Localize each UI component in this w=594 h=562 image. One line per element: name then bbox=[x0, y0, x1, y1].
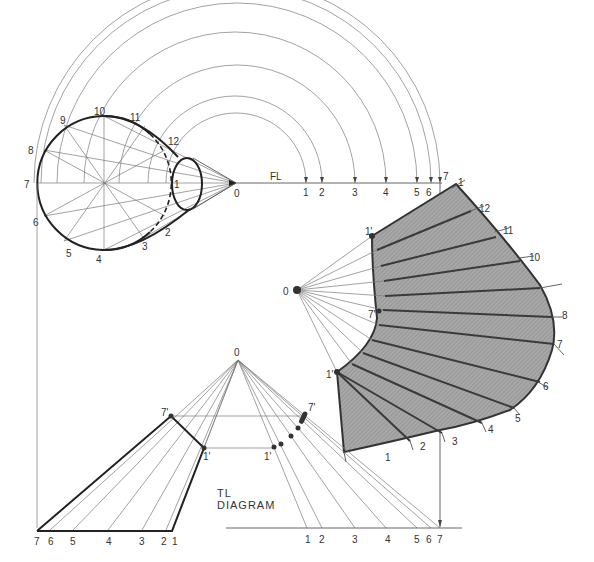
svg-text:6: 6 bbox=[48, 536, 54, 547]
pattern-development bbox=[293, 180, 564, 462]
cone-development-drawing: FL 1 2 3 4 5 6 7 bbox=[0, 0, 594, 562]
svg-text:8: 8 bbox=[562, 310, 568, 321]
svg-text:1': 1' bbox=[365, 226, 373, 237]
svg-text:3: 3 bbox=[139, 536, 145, 547]
fl-label: FL bbox=[270, 171, 282, 182]
svg-text:1: 1 bbox=[385, 452, 391, 463]
svg-text:7: 7 bbox=[34, 536, 40, 547]
svg-text:DIAGRAM: DIAGRAM bbox=[217, 499, 275, 511]
svg-text:0: 0 bbox=[234, 347, 240, 358]
svg-text:7: 7 bbox=[437, 534, 443, 545]
svg-text:3: 3 bbox=[352, 187, 358, 198]
svg-text:2: 2 bbox=[161, 536, 167, 547]
svg-text:10: 10 bbox=[94, 106, 106, 117]
svg-text:6: 6 bbox=[543, 381, 549, 392]
top-view bbox=[37, 116, 236, 250]
svg-text:0: 0 bbox=[234, 188, 240, 199]
svg-text:0: 0 bbox=[283, 286, 289, 297]
svg-text:1': 1' bbox=[264, 451, 272, 462]
svg-text:12: 12 bbox=[168, 136, 180, 147]
svg-text:8: 8 bbox=[28, 145, 34, 156]
svg-text:1: 1 bbox=[172, 536, 178, 547]
svg-text:9: 9 bbox=[60, 115, 66, 126]
svg-text:1: 1 bbox=[174, 179, 180, 190]
svg-text:5: 5 bbox=[414, 534, 420, 545]
arc-1 bbox=[166, 113, 306, 183]
svg-text:2: 2 bbox=[420, 441, 426, 452]
svg-text:5: 5 bbox=[70, 536, 76, 547]
svg-text:4: 4 bbox=[106, 536, 112, 547]
svg-text:7: 7 bbox=[443, 171, 449, 182]
svg-text:4: 4 bbox=[385, 534, 391, 545]
svg-text:1: 1 bbox=[303, 187, 309, 198]
svg-text:1': 1' bbox=[326, 369, 334, 380]
svg-text:11: 11 bbox=[503, 225, 514, 236]
svg-text:1: 1 bbox=[458, 177, 464, 188]
fl-point-labels: 1 2 3 4 5 6 7 bbox=[303, 171, 449, 198]
fl-arrowheads bbox=[304, 177, 442, 183]
svg-text:TL: TL bbox=[217, 487, 232, 499]
svg-text:4: 4 bbox=[488, 424, 494, 435]
svg-text:6: 6 bbox=[426, 534, 432, 545]
svg-text:7: 7 bbox=[24, 179, 30, 190]
svg-text:4: 4 bbox=[96, 254, 102, 265]
svg-text:7': 7' bbox=[368, 309, 376, 320]
svg-text:7: 7 bbox=[557, 339, 563, 350]
svg-text:1': 1' bbox=[203, 451, 211, 462]
svg-text:11: 11 bbox=[130, 112, 141, 123]
svg-text:7': 7' bbox=[161, 407, 169, 418]
svg-text:2: 2 bbox=[165, 227, 171, 238]
svg-text:4: 4 bbox=[383, 187, 389, 198]
svg-text:5: 5 bbox=[66, 248, 72, 259]
revolution-arcs bbox=[34, 0, 440, 183]
svg-text:6: 6 bbox=[426, 187, 432, 198]
svg-text:3: 3 bbox=[142, 241, 148, 252]
svg-text:10: 10 bbox=[529, 252, 541, 263]
svg-text:3: 3 bbox=[452, 436, 458, 447]
svg-text:1: 1 bbox=[305, 534, 311, 545]
svg-text:7': 7' bbox=[308, 402, 316, 413]
svg-text:12: 12 bbox=[479, 203, 491, 214]
svg-text:2: 2 bbox=[319, 187, 325, 198]
svg-text:6: 6 bbox=[33, 217, 39, 228]
svg-text:3: 3 bbox=[352, 534, 358, 545]
svg-text:2: 2 bbox=[319, 534, 325, 545]
svg-text:5: 5 bbox=[515, 413, 521, 424]
svg-text:5: 5 bbox=[414, 187, 420, 198]
